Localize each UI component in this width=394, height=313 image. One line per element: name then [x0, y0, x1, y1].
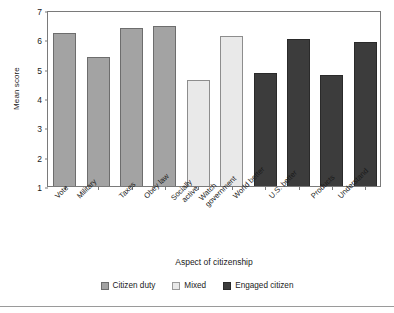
legend-item-label: Mixed [184, 281, 206, 290]
bar [53, 33, 76, 186]
legend-item: Citizen duty [101, 281, 156, 290]
y-axis-tick-label: 2 [2, 154, 48, 163]
bar [120, 28, 143, 186]
x-axis-tick-labels: VoteMilitaryTaxesObey lawSociallyactiveW… [47, 192, 381, 254]
legend-swatch-icon [101, 282, 109, 290]
x-axis-tick-mark [332, 186, 333, 190]
bottom-divider [0, 306, 394, 307]
x-axis-tick-mark [265, 186, 266, 190]
legend-swatch-icon [172, 282, 180, 290]
x-axis-title: Aspect of citizenship [47, 257, 381, 267]
legend-item: Mixed [172, 281, 206, 290]
y-axis-tick-mark [45, 188, 49, 189]
bar [320, 75, 343, 186]
bar [153, 26, 176, 186]
x-axis-tick-mark [98, 186, 99, 190]
y-axis-tick-label: 3 [2, 125, 48, 134]
chart-legend: Citizen dutyMixedEngaged citizen [0, 281, 394, 290]
y-axis-tick-label: 1 [2, 184, 48, 193]
legend-item-label: Engaged citizen [235, 281, 293, 290]
bar [220, 36, 243, 186]
plot-area: 7654321 [47, 11, 381, 187]
bar-series-group [48, 12, 380, 186]
y-axis-tick-label: 6 [2, 37, 48, 46]
legend-swatch-icon [223, 282, 231, 290]
x-axis-tick-mark [299, 186, 300, 190]
bar [354, 42, 377, 186]
y-axis-title: Mean score [12, 49, 21, 129]
x-axis-tick-mark [165, 186, 166, 190]
bar [187, 80, 210, 186]
bar [87, 57, 110, 186]
y-axis-tick-label: 4 [2, 96, 48, 105]
y-axis-tick-label: 5 [2, 66, 48, 75]
y-axis-tick-label: 7 [2, 8, 48, 17]
x-axis-tick-mark [365, 186, 366, 190]
bar [287, 39, 310, 186]
legend-item-label: Citizen duty [113, 281, 156, 290]
bar-chart-figure: Mean score 7654321 VoteMilitaryTaxesObey… [0, 0, 394, 313]
legend-item: Engaged citizen [223, 281, 293, 290]
